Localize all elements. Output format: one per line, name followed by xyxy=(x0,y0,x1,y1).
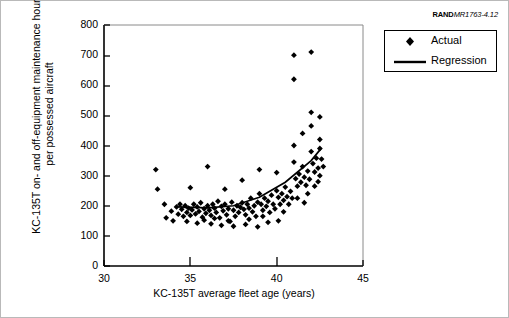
data-point xyxy=(312,169,318,175)
y-tick-label: 500 xyxy=(72,108,98,120)
data-point xyxy=(294,195,300,201)
data-point xyxy=(275,194,281,200)
data-point xyxy=(320,164,326,170)
data-point xyxy=(251,203,257,209)
data-point xyxy=(257,167,263,173)
plot-axes xyxy=(104,25,363,266)
data-point xyxy=(162,201,168,207)
data-point xyxy=(168,208,174,214)
figure-container: RANDMR1763-4.12 xyxy=(0,0,509,318)
data-point xyxy=(239,177,245,183)
data-point xyxy=(250,209,256,215)
data-point xyxy=(253,213,259,219)
data-point xyxy=(184,219,190,225)
data-point xyxy=(300,131,306,137)
data-point xyxy=(163,215,169,221)
legend-entry-regression: Regression xyxy=(385,51,498,72)
y-tick-label: 0 xyxy=(72,259,98,271)
data-point xyxy=(305,168,311,174)
y-axis-title: KC-135T on- and off-equipment maintenanc… xyxy=(30,0,56,234)
data-point xyxy=(267,209,273,215)
data-point xyxy=(291,159,297,165)
data-point xyxy=(282,184,288,190)
data-point xyxy=(187,185,193,191)
data-point-markers xyxy=(153,49,326,230)
legend-label-actual: Actual xyxy=(431,34,462,46)
data-point xyxy=(308,149,314,155)
data-point xyxy=(205,164,211,170)
data-point xyxy=(269,192,275,198)
y-tick-label: 800 xyxy=(72,18,98,30)
data-point xyxy=(231,223,237,229)
data-point xyxy=(289,195,295,201)
data-point xyxy=(312,183,318,189)
data-point xyxy=(317,114,323,120)
data-point xyxy=(315,165,321,171)
data-point xyxy=(255,224,261,230)
data-point xyxy=(307,176,313,182)
data-point xyxy=(246,216,252,222)
legend: Actual Regression xyxy=(384,30,497,72)
data-point xyxy=(294,183,300,189)
data-point xyxy=(224,212,230,218)
data-point xyxy=(181,213,187,219)
data-point xyxy=(291,143,297,149)
data-point xyxy=(198,200,204,206)
data-point xyxy=(222,186,228,192)
data-point xyxy=(315,179,321,185)
legend-entry-actual: Actual xyxy=(385,31,498,52)
data-point xyxy=(275,218,281,224)
data-point xyxy=(175,211,181,217)
data-point xyxy=(288,188,294,194)
x-tick-label: 30 xyxy=(91,272,117,284)
data-point xyxy=(231,207,237,213)
data-point xyxy=(236,209,242,215)
data-point xyxy=(219,222,225,228)
data-point xyxy=(277,201,283,207)
data-point xyxy=(301,200,307,206)
legend-label-regression: Regression xyxy=(431,54,487,66)
y-tick-label: 400 xyxy=(72,139,98,151)
data-point xyxy=(286,201,292,207)
data-point xyxy=(153,167,159,173)
data-point xyxy=(208,221,214,227)
solid-line-icon xyxy=(393,51,427,72)
data-point xyxy=(194,220,200,226)
data-point xyxy=(243,212,249,218)
data-point xyxy=(260,213,266,219)
data-point xyxy=(260,207,266,213)
data-point xyxy=(155,186,161,192)
data-point xyxy=(284,194,290,200)
data-point xyxy=(301,174,307,180)
data-point xyxy=(215,198,221,204)
data-point xyxy=(308,109,314,115)
x-tick-label: 35 xyxy=(177,272,203,284)
y-tick-label: 700 xyxy=(72,48,98,60)
data-point xyxy=(274,170,280,176)
data-point xyxy=(317,173,323,179)
data-point xyxy=(217,215,223,221)
data-point xyxy=(317,137,323,143)
y-tick-label: 600 xyxy=(72,78,98,90)
data-point xyxy=(303,182,309,188)
diamond-marker-icon xyxy=(393,31,427,52)
x-tick-label: 40 xyxy=(264,272,290,284)
y-tick-label: 200 xyxy=(72,199,98,211)
y-tick-marks xyxy=(104,25,110,266)
data-point xyxy=(265,219,271,225)
data-point xyxy=(170,218,176,224)
data-point xyxy=(279,191,285,197)
data-point xyxy=(298,179,304,185)
data-point xyxy=(281,197,287,203)
data-point xyxy=(263,203,269,209)
data-point xyxy=(305,191,311,197)
data-point xyxy=(243,222,249,228)
data-point xyxy=(308,49,314,55)
data-point xyxy=(308,123,314,129)
x-tick-marks xyxy=(104,257,363,266)
x-axis-title: KC-135T average fleet age (years) xyxy=(104,287,364,300)
data-point xyxy=(291,76,297,82)
data-point xyxy=(232,213,238,219)
data-point xyxy=(319,156,325,162)
data-point xyxy=(281,209,287,215)
